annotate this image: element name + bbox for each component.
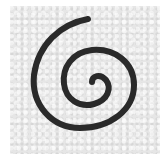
spiral-drawing xyxy=(0,0,168,158)
spiral-stroke xyxy=(34,19,134,128)
